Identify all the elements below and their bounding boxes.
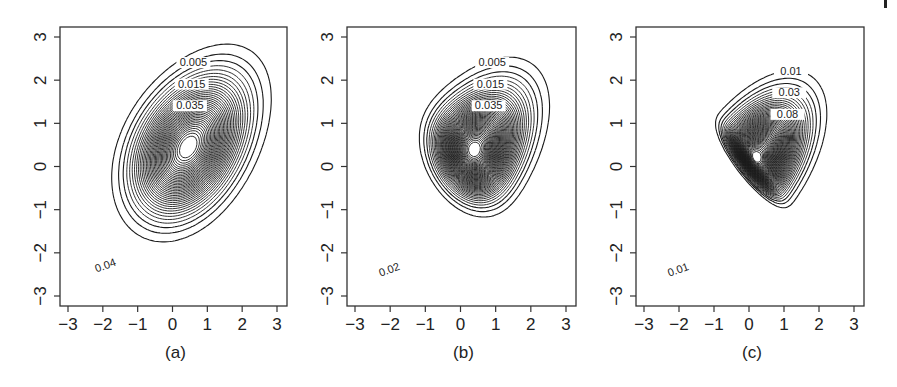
y-tick-label: 0 [318, 162, 337, 171]
x-tick-label: −3 [634, 315, 653, 334]
x-tick-label: 2 [237, 315, 246, 334]
x-tick-label: 1 [779, 315, 788, 334]
y-tick-label: −1 [31, 200, 50, 219]
x-tick-label: 0 [456, 315, 465, 334]
x-tick-label: −1 [416, 315, 435, 334]
x-tick-label: 3 [561, 315, 570, 334]
x-tick-label: 1 [203, 315, 212, 334]
contour-figure: 0.0050.0150.0350.04−3−2−10123−3−2−10123(… [0, 0, 897, 387]
panel-b: 0.0050.0150.0350.02−3−2−10123−3−2−10123(… [318, 27, 576, 362]
y-axis: −3−2−10123 [31, 32, 60, 305]
x-axis: −3−2−10123 [58, 306, 281, 334]
contour-label: 0.01 [780, 65, 801, 77]
contour-lines [112, 44, 272, 242]
y-tick-label: 3 [31, 32, 50, 41]
x-tick-label: −2 [93, 315, 112, 334]
y-axis: −3−2−10123 [607, 32, 636, 305]
y-tick-label: 2 [31, 75, 50, 84]
x-tick-label: 2 [814, 315, 823, 334]
contour-label: 0.005 [180, 56, 208, 68]
x-tick-label: −2 [669, 315, 688, 334]
y-tick-label: −2 [318, 243, 337, 262]
x-tick-label: −2 [380, 315, 399, 334]
y-tick-label: 1 [31, 119, 50, 128]
x-tick-label: −3 [58, 315, 77, 334]
panel-a: 0.0050.0150.0350.04−3−2−10123−3−2−10123(… [31, 27, 287, 362]
y-tick-label: 3 [318, 32, 337, 41]
panel-c: 0.010.030.080.01−3−2−10123−3−2−10123(c) [607, 27, 864, 362]
contour-label: 0.02 [377, 260, 401, 279]
x-tick-label: 0 [168, 315, 177, 334]
y-tick-label: 0 [607, 162, 626, 171]
page-edge-mark [884, 0, 887, 8]
y-tick-label: −1 [318, 200, 337, 219]
y-tick-label: −3 [31, 286, 50, 305]
y-tick-label: −2 [607, 243, 626, 262]
contour-label: 0.04 [93, 256, 117, 275]
panel-caption: (a) [165, 343, 186, 362]
y-tick-label: 0 [31, 162, 50, 171]
contour-label: 0.035 [475, 99, 503, 111]
y-tick-label: −1 [607, 200, 626, 219]
panel-caption: (b) [453, 343, 474, 362]
contour-label: 0.035 [176, 99, 204, 111]
x-tick-label: −1 [128, 315, 147, 334]
x-tick-label: 3 [849, 315, 858, 334]
contour-label: 0.015 [178, 78, 206, 90]
contour-label: 0.005 [478, 56, 506, 68]
x-tick-label: −1 [704, 315, 723, 334]
y-axis: −3−2−10123 [318, 32, 347, 305]
y-tick-label: 1 [318, 119, 337, 128]
x-tick-label: −3 [345, 315, 364, 334]
y-tick-label: 3 [607, 32, 626, 41]
x-tick-label: 2 [526, 315, 535, 334]
x-tick-label: 0 [744, 315, 753, 334]
y-tick-label: −3 [318, 286, 337, 305]
x-axis: −3−2−10123 [634, 306, 858, 334]
contour-lines [716, 71, 827, 208]
contour-label: 0.03 [779, 86, 800, 98]
x-axis: −3−2−10123 [345, 306, 570, 334]
y-tick-label: 2 [318, 75, 337, 84]
x-tick-label: 1 [491, 315, 500, 334]
x-tick-label: 3 [272, 315, 281, 334]
y-tick-label: 2 [607, 75, 626, 84]
contour-label: 0.01 [666, 260, 690, 279]
contour-label: 0.08 [777, 108, 798, 120]
y-tick-label: −3 [607, 286, 626, 305]
y-tick-label: 1 [607, 119, 626, 128]
contour-label: 0.015 [477, 78, 505, 90]
y-tick-label: −2 [31, 243, 50, 262]
panel-caption: (c) [742, 343, 762, 362]
